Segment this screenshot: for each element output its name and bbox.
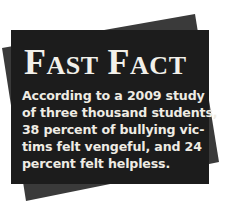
body-line: tims felt vengeful, and 24 bbox=[22, 138, 202, 155]
title-initial-1: F bbox=[24, 42, 47, 82]
body-line: 38 percent of bullying vic- bbox=[22, 121, 202, 138]
body-line: of three thousand students, bbox=[22, 104, 202, 121]
fast-fact-body: According to a 2009 study of three thous… bbox=[22, 87, 202, 172]
body-line: percent felt helpless. bbox=[22, 155, 202, 172]
fast-fact-box: FASTFACT According to a 2009 study of th… bbox=[11, 30, 209, 184]
title-initial-2: F bbox=[108, 42, 131, 82]
title-rest-2: ACT bbox=[130, 51, 186, 80]
title-rest-1: AST bbox=[47, 51, 99, 80]
body-line: According to a 2009 study bbox=[22, 87, 202, 104]
fast-fact-title: FASTFACT bbox=[24, 44, 186, 80]
